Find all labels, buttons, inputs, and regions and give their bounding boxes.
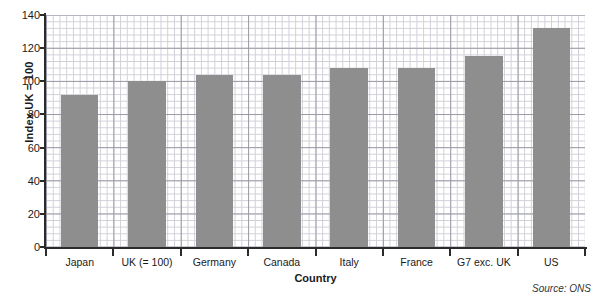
x-tick-label: Canada — [248, 256, 315, 268]
x-tick-mark — [247, 249, 249, 256]
bar-g7-exc-uk — [465, 56, 502, 247]
y-tick-label: 100 — [6, 75, 40, 87]
bar-uk-100 — [128, 81, 165, 247]
y-tick-mark — [40, 14, 46, 16]
y-tick-mark — [40, 113, 46, 115]
x-tick-label: France — [383, 256, 450, 268]
x-tick-mark — [517, 249, 519, 256]
x-tick-mark — [180, 249, 182, 256]
y-tick-mark — [40, 213, 46, 215]
bar-us — [533, 28, 570, 247]
y-tick-mark — [40, 47, 46, 49]
x-tick-label: G7 exc. UK — [450, 256, 517, 268]
bar-chart-figure: Index UK = 100 020406080100120140 JapanU… — [0, 0, 597, 299]
x-tick-mark — [112, 249, 114, 256]
plot-area: 020406080100120140 — [46, 15, 585, 247]
bar-germany — [196, 75, 233, 247]
x-tick-mark — [449, 249, 451, 256]
y-tick-label: 80 — [6, 108, 40, 120]
y-tick-label: 120 — [6, 42, 40, 54]
y-tick-label: 40 — [6, 175, 40, 187]
x-tick-mark — [315, 249, 317, 256]
y-tick-label: 20 — [6, 208, 40, 220]
x-axis-title: Country — [46, 272, 585, 284]
y-tick-label: 0 — [6, 241, 40, 253]
y-tick-label: 140 — [6, 9, 40, 21]
x-tick-label: Japan — [46, 256, 113, 268]
y-tick-mark — [40, 80, 46, 82]
x-tick-label: Italy — [316, 256, 383, 268]
y-tick-mark — [40, 246, 46, 248]
bar-canada — [263, 75, 300, 247]
major-gridlines — [46, 15, 585, 247]
source-note: Source: ONS — [532, 283, 591, 294]
x-tick-label: Germany — [181, 256, 248, 268]
y-tick-label: 60 — [6, 142, 40, 154]
x-tick-label: UK (= 100) — [113, 256, 180, 268]
bar-france — [398, 68, 435, 247]
x-tick-mark — [45, 249, 47, 256]
y-tick-mark — [40, 147, 46, 149]
y-tick-mark — [40, 180, 46, 182]
x-tick-mark — [382, 249, 384, 256]
bar-italy — [330, 68, 367, 247]
bar-japan — [61, 95, 98, 247]
minor-gridlines — [46, 15, 585, 247]
x-tick-label: US — [518, 256, 585, 268]
x-tick-mark — [584, 249, 586, 256]
